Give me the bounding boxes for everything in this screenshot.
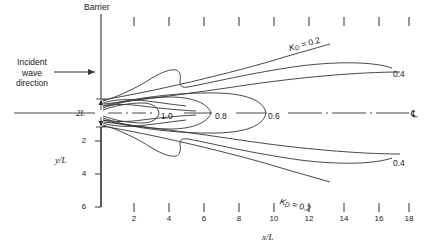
contour-kd-02-lower — [102, 126, 330, 182]
contour-kd-04-upper — [103, 63, 392, 101]
incident-line-3: direction — [4, 78, 60, 89]
contour-kd-02-upper — [102, 44, 330, 100]
x-tick-label-4: 4 — [161, 214, 177, 223]
incident-line-1: Incident — [4, 57, 60, 68]
contour-lower-inner-sweep — [104, 122, 400, 154]
x-tick-label-2: 2 — [126, 214, 142, 223]
diffraction-contour-plot — [0, 0, 424, 249]
incident-wave-direction-label: Incident wave direction — [4, 57, 60, 89]
y-tick-label-2: 2 — [76, 136, 92, 145]
top-tick-marks — [134, 17, 409, 26]
y-axis-label: y/L — [55, 155, 67, 166]
contour-label-kd-04-upper: 0.4 — [393, 69, 405, 79]
barrier-label: Barrier — [84, 2, 110, 13]
incident-wave-arrow — [54, 69, 95, 75]
gap-dimension-arrows — [96, 99, 106, 127]
x-tick-label-10: 10 — [266, 214, 282, 223]
incident-line-2: wave — [4, 68, 60, 79]
x-axis-ticks — [134, 203, 409, 212]
x-tick-label-14: 14 — [336, 214, 352, 223]
contour-label-kd-04-lower: 0.4 — [393, 158, 405, 168]
centerline-symbol: ℄ — [411, 108, 417, 121]
x-tick-label-16: 16 — [371, 214, 387, 223]
gap-width-label: 2L — [76, 108, 85, 119]
contour-kd-04-lower — [103, 125, 392, 163]
x-tick-label-12: 12 — [301, 214, 317, 223]
x-tick-label-8: 8 — [231, 214, 247, 223]
x-tick-label-18: 18 — [401, 214, 417, 223]
contour-label-kd-08: 0.8 — [215, 111, 227, 121]
contour-label-kd-10: 1.0 — [161, 111, 173, 121]
contour-upper-inner-sweep — [104, 72, 400, 104]
x-tick-label-6: 6 — [196, 214, 212, 223]
wave-diffraction-figure: Barrier Incident wave direction 2L y/L x… — [0, 0, 424, 249]
y-axis-ticks — [95, 141, 101, 207]
x-axis-label: x/L — [262, 232, 274, 243]
y-tick-label-4: 4 — [76, 169, 92, 178]
y-tick-label-6: 6 — [76, 202, 92, 211]
contour-label-kd-06: 0.6 — [268, 111, 280, 121]
